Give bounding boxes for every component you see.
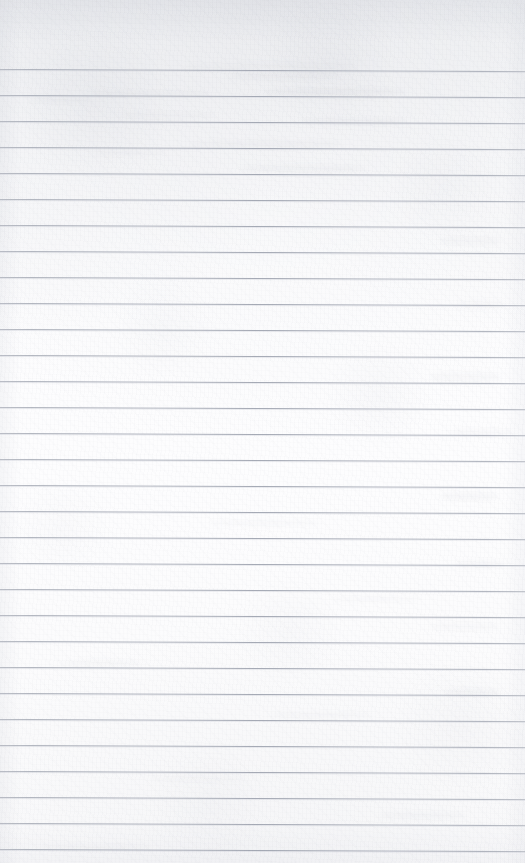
- scanned-page: [0, 0, 525, 863]
- paper-background: [0, 0, 525, 863]
